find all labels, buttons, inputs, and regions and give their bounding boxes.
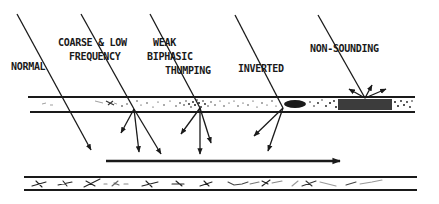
upper-band-texture-left [42,101,117,105]
upper-band [28,97,415,112]
coarse-ray [81,14,161,154]
non-sounding-ray [318,15,386,98]
label-coarse-line1: COARSE & LOW [58,37,128,48]
upper-band-stipple [121,99,413,110]
label-coarse-line2: FREQUENCY [69,51,121,62]
lower-band-texture [32,179,382,187]
reflection-diagram: NORMAL COARSE & LOW FREQUENCY WEAK BIPHA… [0,0,439,204]
label-non-sounding: NON-SOUNDING [310,43,379,54]
weak-ray [150,14,211,154]
inverted-ray [235,15,283,151]
label-normal: NORMAL [11,61,46,72]
label-weak-line3: THUMPING [165,65,211,76]
lower-band [24,177,417,190]
normal-ray [17,14,91,150]
